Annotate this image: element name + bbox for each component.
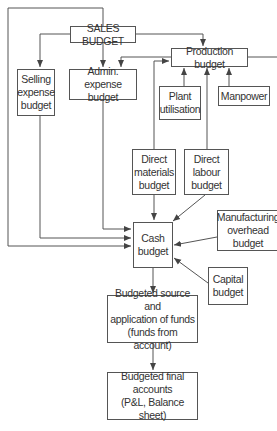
production-budget-box: Production budget bbox=[171, 48, 248, 67]
plant-utilisation-label: Plant utilisation bbox=[160, 90, 200, 116]
direct-materials-budget-label: Direct materials budget bbox=[134, 153, 174, 192]
admin-expense-budget-label: Admin. expense budget bbox=[70, 65, 136, 104]
cash-budget-box: Cash budget bbox=[133, 222, 173, 268]
budgeted-final-accounts-label: Budgeted final accounts (P&L, Balance sh… bbox=[108, 370, 197, 422]
cash-budget-label: Cash budget bbox=[138, 232, 168, 258]
admin-expense-budget-box: Admin. expense budget bbox=[69, 69, 137, 100]
manpower-box: Manpower bbox=[218, 86, 270, 106]
sales-budget-label: SALES BUDGET bbox=[71, 22, 135, 48]
direct-materials-budget-box: Direct materials budget bbox=[132, 149, 176, 195]
direct-labour-budget-label: Direct labour budget bbox=[191, 153, 221, 192]
production-budget-label: Production budget bbox=[172, 45, 247, 71]
plant-utilisation-box: Plant utilisation bbox=[159, 86, 201, 120]
manufacturing-overhead-budget-box: Manufacturing overhead budget bbox=[217, 210, 277, 251]
manpower-label: Manpower bbox=[221, 90, 268, 103]
selling-expense-budget-box: Selling expense budget bbox=[17, 69, 55, 116]
manufacturing-overhead-budget-label: Manufacturing overhead budget bbox=[217, 211, 277, 250]
capital-budget-box: Capital budget bbox=[208, 267, 248, 305]
budgeted-final-accounts-box: Budgeted final accounts (P&L, Balance sh… bbox=[107, 372, 198, 420]
capital-budget-label: Capital budget bbox=[213, 273, 244, 299]
direct-labour-budget-box: Direct labour budget bbox=[184, 149, 229, 195]
selling-expense-budget-label: Selling expense budget bbox=[17, 73, 55, 112]
budgeted-funds-box: Budgeted source and application of funds… bbox=[107, 295, 198, 343]
budgeted-funds-label: Budgeted source and application of funds… bbox=[108, 287, 197, 352]
sales-budget-box: SALES BUDGET bbox=[70, 26, 136, 43]
